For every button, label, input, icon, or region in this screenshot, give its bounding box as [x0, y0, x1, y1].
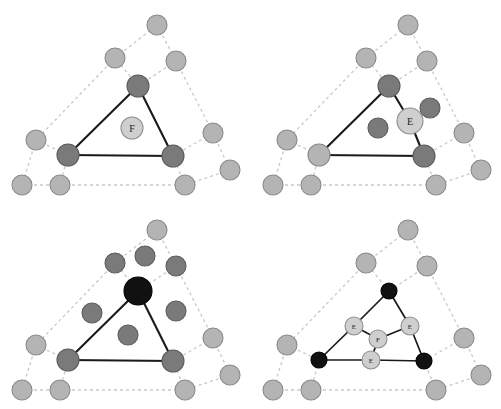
mesh-node-dark — [166, 256, 186, 276]
label-node-text-e: E — [369, 357, 373, 365]
mesh-node-light — [12, 380, 32, 400]
dashed-edge-group — [22, 25, 230, 185]
mesh-node-dark — [135, 246, 155, 266]
dashed-edge-group — [273, 25, 481, 185]
label-node-group: F — [121, 117, 143, 139]
mesh-node-dark — [420, 98, 440, 118]
mesh-node-dark — [105, 253, 125, 273]
mesh-node-light — [356, 48, 376, 68]
mesh-node-light — [263, 380, 283, 400]
dashed-edge — [176, 266, 213, 338]
mesh-node-light — [166, 51, 186, 71]
mesh-node-light — [26, 335, 46, 355]
face-point-panel: F — [0, 0, 250, 205]
solid-edge-group — [68, 86, 173, 156]
mesh-node-light — [50, 175, 70, 195]
mesh-node-dark — [82, 303, 102, 323]
node-group — [263, 220, 491, 400]
mesh-node-light — [263, 175, 283, 195]
mesh-node-light — [12, 175, 32, 195]
mesh-node-light — [454, 123, 474, 143]
mesh-node-light — [220, 160, 240, 180]
mesh-node-light — [454, 328, 474, 348]
dashed-edge — [427, 61, 464, 133]
vertex-point-panel — [0, 205, 250, 409]
mesh-node-dark — [118, 325, 138, 345]
node-group — [263, 15, 491, 195]
mesh-node-light — [277, 335, 297, 355]
mesh-node-dark — [368, 118, 388, 138]
mesh-node-light — [147, 220, 167, 240]
mesh-node-light — [398, 15, 418, 35]
edge-point-panel: E — [251, 0, 501, 205]
subdivision-figure: FEEEEF — [0, 0, 501, 409]
mesh-node-light — [308, 144, 330, 166]
mesh-node-dark — [162, 350, 184, 372]
label-node-text-e: E — [407, 116, 413, 127]
mesh-node-light — [471, 365, 491, 385]
dashed-edge — [287, 58, 366, 140]
mesh-node-light — [203, 328, 223, 348]
mesh-node-black — [124, 277, 152, 305]
mesh-node-light — [301, 175, 321, 195]
mesh-node-light — [398, 220, 418, 240]
mesh-node-light — [220, 365, 240, 385]
mesh-node-light — [105, 48, 125, 68]
mesh-node-light — [26, 130, 46, 150]
mesh-node-light — [277, 130, 297, 150]
dashed-edge — [36, 58, 115, 140]
label-node-text-f: F — [376, 336, 380, 344]
label-node-group: E — [397, 108, 423, 134]
mesh-node-black — [311, 352, 327, 368]
mesh-node-dark — [166, 301, 186, 321]
label-node-text-e: E — [408, 323, 412, 331]
mesh-node-light — [426, 380, 446, 400]
node-group — [12, 220, 240, 400]
node-group — [12, 15, 240, 195]
mesh-node-black — [416, 353, 432, 369]
mesh-node-dark — [413, 145, 435, 167]
dashed-edge — [176, 61, 213, 133]
dashed-edge-group — [22, 230, 230, 390]
mesh-node-dark — [127, 75, 149, 97]
mesh-node-light — [356, 253, 376, 273]
mesh-node-dark — [162, 145, 184, 167]
solid-edge-group — [68, 291, 173, 361]
dashed-edge — [36, 263, 115, 345]
solid-edge — [68, 360, 173, 361]
dashed-edge — [427, 266, 464, 338]
label-node-text-f: F — [129, 123, 135, 134]
mesh-node-dark — [378, 75, 400, 97]
mesh-node-light — [203, 123, 223, 143]
solid-edge — [138, 86, 173, 156]
solid-edge — [68, 155, 173, 156]
mesh-node-light — [175, 380, 195, 400]
mesh-node-light — [417, 256, 437, 276]
mesh-node-light — [50, 380, 70, 400]
mesh-node-light — [471, 160, 491, 180]
mesh-node-black — [381, 283, 397, 299]
subdivided-mesh-panel: EEEF — [251, 205, 501, 409]
mesh-node-dark — [57, 349, 79, 371]
mesh-node-light — [175, 175, 195, 195]
solid-edge — [319, 155, 424, 156]
mesh-node-dark — [57, 144, 79, 166]
label-node-text-e: E — [352, 323, 356, 331]
mesh-node-light — [147, 15, 167, 35]
mesh-node-light — [426, 175, 446, 195]
mesh-node-light — [301, 380, 321, 400]
mesh-node-light — [417, 51, 437, 71]
